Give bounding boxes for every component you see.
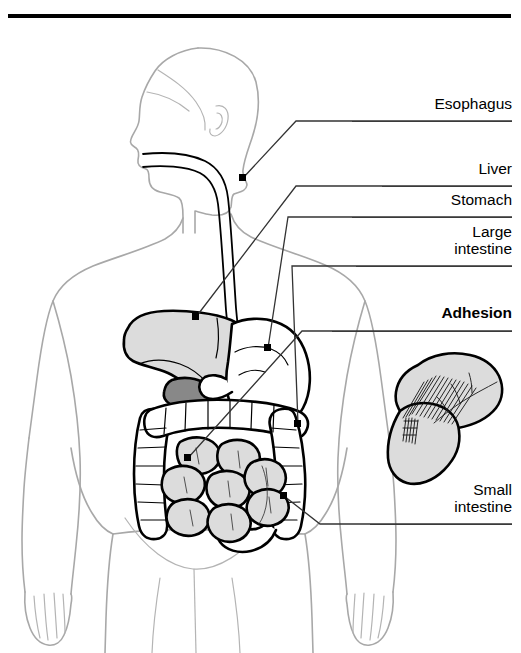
leader-dot-adhesion: [184, 454, 191, 461]
leader-dot-large-intestine: [294, 420, 301, 427]
leader-dot-stomach: [264, 344, 271, 351]
leader-dot-small-intestine: [280, 492, 287, 499]
label-stomach-rule: [352, 217, 512, 218]
leader-dot-esophagus: [239, 174, 246, 181]
adhesion-inset: [388, 353, 502, 484]
label-esophagus-rule: [352, 121, 512, 122]
title-bar: Illustration of an Adhesion: [0, 0, 521, 14]
label-liver-text: Liver: [352, 160, 512, 177]
label-small-intestine-text: Small intestine: [352, 481, 512, 515]
small-intestine-organ: [162, 437, 289, 541]
anatomy-figure: .bodyline { fill:none; stroke:#a8a8a8; s…: [0, 18, 521, 653]
label-adhesion-text: Adhesion: [352, 304, 512, 321]
label-adhesion-rule: [332, 331, 512, 332]
label-large-intestine-rule: [356, 266, 512, 267]
page-title: Illustration of an Adhesion: [6, 0, 214, 5]
leader-dot-liver: [192, 313, 199, 320]
label-stomach-text: Stomach: [352, 191, 512, 208]
label-large-intestine-text: Large intestine: [352, 223, 512, 257]
illustration-page: Illustration of an Adhesion .bodyline { …: [0, 0, 521, 653]
label-small-intestine-rule: [370, 524, 512, 525]
label-liver-rule: [382, 186, 512, 187]
label-esophagus-text: Esophagus: [352, 95, 512, 112]
